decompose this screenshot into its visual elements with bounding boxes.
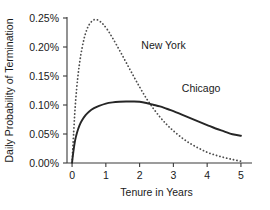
chart-plot: 0.00%0.05%0.10%0.15%0.20%0.25% 012345 Ne… — [0, 0, 270, 210]
series-line-chicago — [72, 101, 241, 162]
y-tick-label: 0.25% — [29, 12, 59, 24]
x-tick-label: 0 — [69, 169, 75, 181]
y-axis-ticks: 0.00%0.05%0.10%0.15%0.20%0.25% — [29, 12, 67, 169]
y-tick-label: 0.05% — [29, 128, 59, 140]
x-tick-label: 2 — [137, 169, 143, 181]
series-annotations: New YorkChicago — [141, 39, 220, 94]
x-tick-label: 5 — [238, 169, 244, 181]
x-tick-label: 3 — [170, 169, 176, 181]
y-tick-label: 0.10% — [29, 99, 59, 111]
y-tick-label: 0.00% — [29, 157, 59, 169]
y-axis-title: Daily Probability of Termination — [3, 18, 15, 162]
x-tick-label: 1 — [103, 169, 109, 181]
chart-container: 0.00%0.05%0.10%0.15%0.20%0.25% 012345 Ne… — [0, 0, 270, 210]
x-tick-label: 4 — [204, 169, 210, 181]
y-tick-label: 0.15% — [29, 70, 59, 82]
series-label-chicago: Chicago — [182, 82, 221, 94]
y-tick-label: 0.20% — [29, 41, 59, 53]
x-axis-title: Tenure in Years — [120, 186, 192, 198]
series-label-new-york: New York — [141, 39, 186, 51]
x-axis-ticks: 012345 — [69, 163, 244, 181]
